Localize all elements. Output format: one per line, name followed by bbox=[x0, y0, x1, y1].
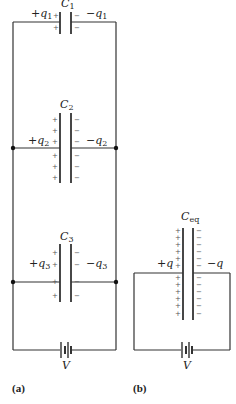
junction-dot bbox=[114, 280, 118, 284]
circuit-a: C1 +q1 −q1 ++ −− C2 +q2 −q2 +++ +++ −−− … bbox=[11, 0, 118, 395]
svg-text:+: + bbox=[53, 12, 59, 20]
parallel-capacitors-diagram: C1 +q1 −q1 ++ −− C2 +q2 −q2 +++ +++ −−− … bbox=[0, 0, 236, 404]
svg-text:+: + bbox=[52, 261, 58, 269]
svg-text:+: + bbox=[52, 174, 58, 182]
c1-right-charge: −q1 bbox=[86, 7, 107, 21]
svg-text:−: − bbox=[74, 174, 80, 182]
c3-minus-signs: −− −− bbox=[74, 249, 80, 300]
capacitor-ceq: Ceq +q −q +++ +++ +++ +++ −−− −−− −−− −−… bbox=[157, 210, 223, 320]
ceq-left-charge: +q bbox=[157, 257, 173, 270]
battery-b: V bbox=[134, 342, 230, 372]
junction-dot bbox=[114, 146, 118, 150]
junction-dot bbox=[11, 280, 15, 284]
svg-text:−: − bbox=[74, 24, 80, 32]
svg-text:+: + bbox=[52, 127, 58, 135]
c2-right-charge: −q2 bbox=[86, 134, 107, 148]
svg-text:−: − bbox=[196, 302, 202, 310]
junction-dot bbox=[11, 146, 15, 150]
c2-label: C2 bbox=[60, 98, 74, 112]
svg-text:−: − bbox=[196, 310, 202, 318]
c1-left-charge: +q1 bbox=[31, 7, 52, 21]
c3-plus-signs: ++ ++ bbox=[52, 249, 58, 300]
svg-text:+: + bbox=[52, 292, 58, 300]
svg-text:−: − bbox=[74, 249, 80, 257]
battery-a-voltage-label: V bbox=[62, 359, 71, 372]
capacitor-c2: C2 +q2 −q2 +++ +++ −−− −−− bbox=[11, 98, 118, 183]
capacitor-c3: C3 +q3 −q3 ++ ++ −− −− bbox=[11, 230, 118, 302]
circuit-b: Ceq +q −q +++ +++ +++ +++ −−− −−− −−− −−… bbox=[133, 210, 230, 395]
ceq-label: Ceq bbox=[181, 210, 199, 224]
c2-left-charge: +q2 bbox=[28, 134, 49, 148]
svg-text:+: + bbox=[52, 116, 58, 124]
svg-text:−: − bbox=[74, 292, 80, 300]
svg-text:−: − bbox=[74, 163, 80, 171]
svg-text:+: + bbox=[52, 138, 58, 146]
c1-label: C1 bbox=[61, 0, 75, 11]
svg-text:−: − bbox=[74, 116, 80, 124]
c2-plus-signs: +++ +++ bbox=[52, 116, 58, 182]
svg-text:+: + bbox=[52, 249, 58, 257]
c2-minus-signs: −−− −−− bbox=[74, 116, 80, 182]
svg-text:+: + bbox=[53, 24, 59, 32]
svg-text:+: + bbox=[52, 278, 58, 286]
c3-right-charge: −q3 bbox=[86, 257, 107, 271]
svg-text:+: + bbox=[175, 302, 181, 310]
battery-a: V bbox=[13, 342, 116, 372]
panel-b-label: (b) bbox=[133, 382, 147, 395]
svg-text:+: + bbox=[52, 163, 58, 171]
capacitor-c1: C1 +q1 −q1 ++ −− bbox=[13, 0, 116, 34]
svg-text:−: − bbox=[74, 12, 80, 20]
svg-text:+: + bbox=[52, 152, 58, 160]
panel-a-label: (a) bbox=[12, 382, 25, 395]
c3-label: C3 bbox=[60, 230, 74, 244]
battery-b-voltage-label: V bbox=[183, 359, 192, 372]
ceq-right-charge: −q bbox=[207, 257, 223, 270]
svg-text:−: − bbox=[74, 127, 80, 135]
svg-text:−: − bbox=[74, 278, 80, 286]
svg-text:+: + bbox=[175, 310, 181, 318]
svg-text:−: − bbox=[74, 138, 80, 146]
svg-text:−: − bbox=[196, 262, 202, 270]
c3-left-charge: +q3 bbox=[29, 257, 50, 271]
svg-text:−: − bbox=[74, 152, 80, 160]
svg-text:+: + bbox=[175, 262, 181, 270]
svg-text:−: − bbox=[74, 261, 80, 269]
